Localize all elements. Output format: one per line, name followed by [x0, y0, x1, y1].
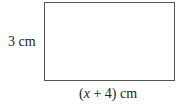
height-label: 3 cm [8, 34, 36, 50]
width-label: (x + 4) cm [79, 86, 137, 102]
rectangle-shape [44, 2, 175, 81]
width-label-rest: + 4) cm [90, 86, 137, 101]
